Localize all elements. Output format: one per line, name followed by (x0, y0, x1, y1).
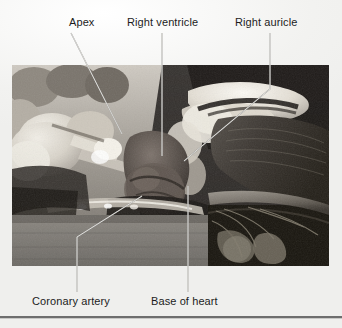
label-base-of-heart: Base of heart (151, 295, 218, 308)
dissection-photograph (12, 65, 329, 266)
label-apex: Apex (69, 16, 94, 29)
photograph-content (12, 65, 329, 266)
label-coronary-artery: Coronary artery (32, 295, 110, 308)
label-right-auricle: Right auricle (235, 16, 297, 29)
bottom-divider-shadow (0, 318, 342, 319)
figure-root: Apex Right ventricle Right auricle Coron… (0, 0, 342, 328)
label-right-ventricle: Right ventricle (127, 16, 198, 29)
